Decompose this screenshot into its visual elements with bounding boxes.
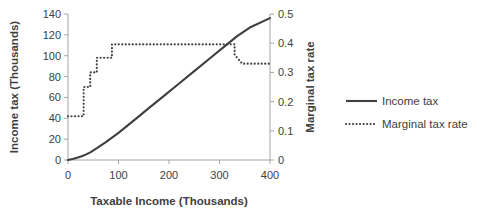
tick-label: 0.2 bbox=[278, 96, 293, 108]
tick-label: 0 bbox=[278, 154, 284, 166]
tick-label: 120 bbox=[43, 29, 61, 41]
tick-label: 20 bbox=[49, 133, 61, 145]
left-axis-tick-labels: 020406080100120140 bbox=[43, 8, 61, 166]
tick-label: 140 bbox=[43, 8, 61, 20]
chart-legend: Income tax Marginal tax rate bbox=[346, 95, 468, 130]
tick-label: 0 bbox=[55, 154, 61, 166]
tick-label: 300 bbox=[210, 169, 228, 181]
x-axis-tick-labels: 0100200300400 bbox=[65, 169, 279, 181]
tick-label: 200 bbox=[160, 169, 178, 181]
chart-figure: 020406080100120140 00.10.20.30.40.5 0100… bbox=[0, 0, 483, 214]
tick-label: 100 bbox=[43, 50, 61, 62]
chart-axes bbox=[64, 14, 274, 164]
right-axis-tick-labels: 00.10.20.30.40.5 bbox=[278, 8, 293, 166]
series-line-income-tax bbox=[68, 18, 270, 160]
tick-label: 40 bbox=[49, 112, 61, 124]
tick-label: 100 bbox=[109, 169, 127, 181]
left-axis-ticks bbox=[64, 14, 68, 160]
tick-label: 80 bbox=[49, 71, 61, 83]
y2-axis-title: Marginal tax rate bbox=[304, 41, 316, 132]
right-axis-ticks bbox=[270, 14, 274, 160]
income-tax-chart: 020406080100120140 00.10.20.30.40.5 0100… bbox=[0, 0, 483, 214]
series-line-marginal-tax-rate bbox=[68, 44, 270, 116]
tick-label: 0.5 bbox=[278, 8, 293, 20]
tick-label: 60 bbox=[49, 91, 61, 103]
y-axis-title: Income tax (Thousands) bbox=[8, 21, 20, 153]
chart-series bbox=[68, 18, 270, 160]
tick-label: 400 bbox=[261, 169, 279, 181]
legend-label-income-tax: Income tax bbox=[382, 95, 438, 107]
tick-label: 0 bbox=[65, 169, 71, 181]
x-axis-title: Taxable Income (Thousands) bbox=[90, 195, 248, 207]
bottom-axis-ticks bbox=[68, 160, 270, 164]
tick-label: 0.1 bbox=[278, 125, 293, 137]
tick-label: 0.3 bbox=[278, 66, 293, 78]
tick-label: 0.4 bbox=[278, 37, 293, 49]
legend-label-marginal-tax-rate: Marginal tax rate bbox=[382, 118, 468, 130]
